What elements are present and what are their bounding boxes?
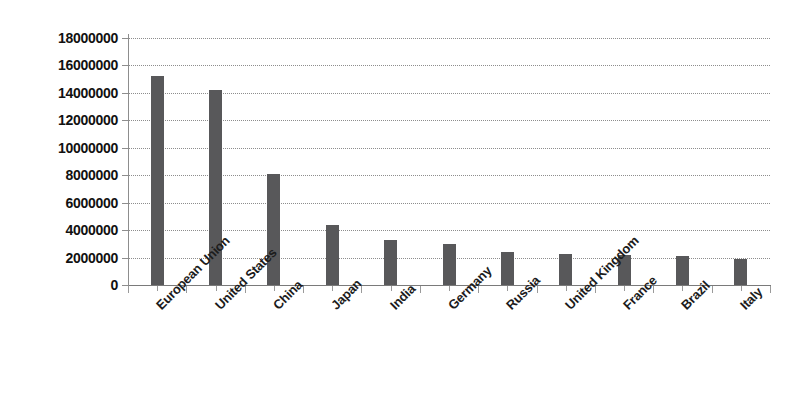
- y-axis-tick-label: 4000000: [66, 223, 118, 237]
- y-axis-tick: [122, 175, 129, 176]
- bar-chart: 1800000016000000140000001200000010000000…: [0, 0, 800, 419]
- bar: [734, 259, 747, 285]
- bar: [151, 76, 164, 285]
- bar: [559, 254, 572, 285]
- y-axis-tick: [122, 285, 129, 286]
- x-axis-labels: European UnionUnited StatesChinaJapanInd…: [0, 290, 800, 419]
- bar: [501, 252, 514, 285]
- y-axis-tick-label: 6000000: [66, 196, 118, 210]
- bar: [443, 244, 456, 285]
- y-axis-tick: [122, 148, 129, 149]
- y-axis-tick: [122, 38, 129, 39]
- y-axis-tick: [122, 93, 129, 94]
- bar: [267, 174, 280, 285]
- y-axis-tick: [122, 120, 129, 121]
- y-axis-tick-label: 12000000: [58, 113, 118, 127]
- y-axis-tick-label: 10000000: [58, 141, 118, 155]
- y-axis-tick-label: 14000000: [58, 86, 118, 100]
- y-axis-tick-label: 16000000: [58, 58, 118, 72]
- y-axis-tick-label: 8000000: [66, 168, 118, 182]
- y-axis-tick: [122, 258, 129, 259]
- bar: [676, 256, 689, 285]
- y-axis-tick: [122, 65, 129, 66]
- bar: [326, 225, 339, 285]
- y-axis-tick-label: 18000000: [58, 31, 118, 45]
- y-axis-tick: [122, 230, 129, 231]
- y-axis-tick: [122, 203, 129, 204]
- y-axis-tick-label: 2000000: [66, 251, 118, 265]
- bar: [384, 240, 397, 285]
